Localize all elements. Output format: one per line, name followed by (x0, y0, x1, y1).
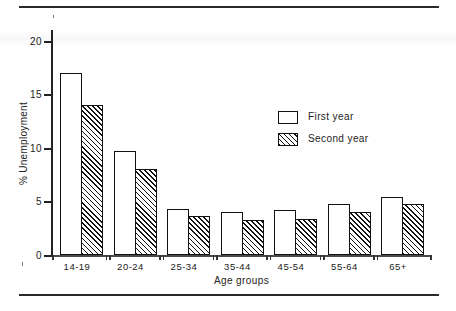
bar-25-34-second-year (188, 216, 210, 255)
bar-65plus-first-year (381, 197, 403, 255)
bar-14-19-first-year (60, 73, 82, 255)
x-axis-tick (266, 255, 268, 260)
bar-20-24-first-year (114, 151, 136, 255)
x-axis-tick (216, 255, 218, 260)
page-rule-bottom (19, 294, 439, 296)
legend-entry-first-year: First year (278, 108, 398, 130)
x-axis-tick (430, 255, 432, 260)
bar-25-34-first-year (167, 209, 189, 255)
y-axis-line (51, 30, 53, 256)
x-axis-title: Age groups (51, 275, 432, 286)
y-axis-title: % Unemployment (16, 85, 30, 205)
x-axis-tick (109, 255, 111, 260)
bar-35-44-second-year (242, 220, 264, 255)
legend: First year Second year (278, 108, 398, 152)
hatched-box-swatch-icon (278, 133, 298, 146)
empty-box-swatch-icon (278, 111, 298, 124)
legend-label-first-year: First year (308, 111, 354, 122)
bar-45-54-first-year (274, 210, 296, 255)
x-axis-tick (270, 255, 272, 260)
page-rule-top (19, 6, 439, 8)
bar-55-64-first-year (328, 204, 350, 255)
y-axis-tick-5 (44, 201, 52, 203)
bar-14-19-second-year (81, 105, 103, 255)
bar-55-64-second-year (349, 212, 371, 255)
x-axis-tick (106, 255, 108, 260)
scan-artifact-band (0, 30, 456, 48)
y-axis-tick-label-0: 0 (16, 250, 42, 261)
x-axis-tick (213, 255, 215, 260)
unemployment-by-age-figure: 0 5 10 15 20 % Unemployment Age groups 1… (0, 0, 456, 311)
x-axis-tick (320, 255, 322, 260)
x-axis-tick (159, 255, 161, 260)
bar-35-44-first-year (221, 212, 243, 255)
x-axis-tick (373, 255, 375, 260)
legend-label-second-year: Second year (308, 133, 369, 144)
legend-entry-second-year: Second year (278, 130, 398, 152)
y-axis-tick-15 (44, 94, 52, 96)
y-axis-tick-10 (44, 148, 52, 150)
y-axis-tick-0 (44, 255, 52, 257)
y-axis-tick-label-20: 20 (16, 36, 42, 47)
scan-speck (22, 262, 23, 266)
x-axis-tick (377, 255, 379, 260)
bar-20-24-second-year (135, 169, 157, 255)
x-axis-tick (323, 255, 325, 260)
x-axis-tick (52, 255, 54, 260)
scan-speck (53, 15, 54, 18)
x-axis-category-label: 65+ (367, 261, 429, 272)
y-axis-tick-20 (44, 41, 52, 43)
bar-65plus-second-year (402, 204, 424, 255)
y-axis-title-text: % Unemployment (18, 84, 29, 204)
x-axis-tick (163, 255, 165, 260)
bar-45-54-second-year (295, 219, 317, 255)
